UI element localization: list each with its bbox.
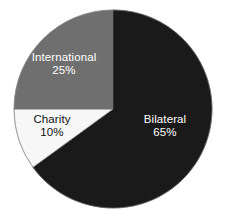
pie-slice-international[interactable] (14, 10, 113, 109)
pie-chart: International 25% Charity 10% Bilateral … (0, 0, 227, 216)
pie-chart-canvas (0, 0, 227, 216)
